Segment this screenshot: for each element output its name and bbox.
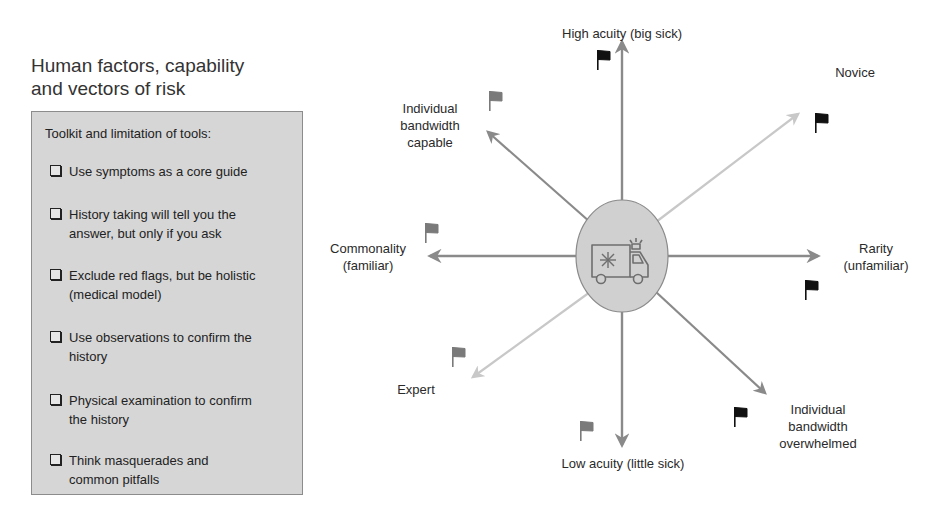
label-low-acuity: Low acuity (little sick) [533,455,713,472]
label-commonality: Commonality (familiar) [313,240,423,274]
center-ellipse [576,200,668,312]
label-text: Expert [386,381,446,398]
flag-icon-expert [453,347,465,367]
label-text: bandwidth [380,117,480,134]
arrow-bandwidth-overwhelmed [656,292,765,393]
label-high-acuity: High acuity (big sick) [547,25,697,42]
flag-icon-high-acuity [598,50,610,70]
label-rarity: Rarity (unfamiliar) [826,240,926,274]
arrow-novice [656,114,798,222]
flag-icon-rarity [806,280,818,300]
label-text: bandwidth [763,418,873,435]
label-text: Low acuity (little sick) [533,455,713,472]
flag-icon-low-acuity [581,421,593,441]
label-text: Commonality [313,240,423,257]
label-text: Novice [820,64,890,81]
label-text: capable [380,134,480,151]
label-novice: Novice [820,64,890,81]
label-text: (unfamiliar) [826,257,926,274]
label-text: Rarity [826,240,926,257]
flag-icon-commonality [426,223,438,243]
label-text: Individual [763,401,873,418]
label-text: High acuity (big sick) [547,25,697,42]
label-bandwidth-overwhelmed: Individual bandwidth overwhelmed [763,401,873,452]
flag-icon-bandwidth-capable [490,91,502,111]
label-text: overwhelmed [763,435,873,452]
label-bandwidth-capable: Individual bandwidth capable [380,100,480,151]
label-expert: Expert [386,381,446,398]
arrow-bandwidth-capable [488,132,590,222]
arrow-expert [473,292,590,377]
flag-icon-bandwidth-overwhelmed [735,407,747,427]
label-text: (familiar) [313,257,423,274]
label-text: Individual [380,100,480,117]
flag-icon-novice [816,113,828,133]
